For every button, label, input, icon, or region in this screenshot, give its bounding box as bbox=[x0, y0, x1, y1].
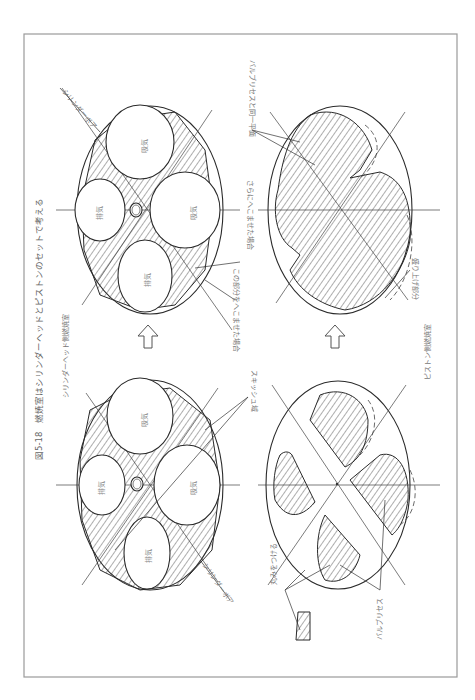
label-valve-recess: バルブリセス bbox=[375, 598, 384, 640]
arrow-top bbox=[138, 325, 158, 348]
head-chamber-baseline: 吸気 吸気 排気 排気 スキッシュ域 シリンダーボア bbox=[56, 370, 259, 606]
label-cylinder-bore-top: シリンダーボア bbox=[60, 88, 98, 131]
intake-valve-2 bbox=[150, 172, 220, 248]
caption-piston-side: ピストン側燃焼室 bbox=[423, 324, 432, 380]
label-squish-area: スキッシュ域 bbox=[250, 370, 259, 412]
arrow-bottom bbox=[325, 325, 345, 348]
label-raised-part: 盛り上げ部分 bbox=[411, 258, 420, 300]
intake-valve-2-baseline bbox=[154, 445, 220, 525]
label-intake-1-baseline: 吸気 bbox=[140, 413, 149, 427]
combustion-chamber-figure: 吸気 吸気 排気 排気 シリンダーボア バルブリセスと同一平面 盛り上げ部分 bbox=[0, 0, 475, 700]
intake-valve-1 bbox=[106, 105, 174, 179]
caption-head-side: シリンダーヘッド側燃焼室 bbox=[61, 314, 70, 398]
label-rounding: 丸みをつける bbox=[269, 543, 278, 585]
label-intake-2-baseline: 吸気 bbox=[189, 481, 198, 495]
intake-valve-1-baseline bbox=[107, 378, 173, 454]
label-exhaust-2: 排気 bbox=[143, 273, 152, 287]
piston-chamber-modified: バルブリセスと同一平面 盛り上げ部分 bbox=[248, 60, 440, 314]
label-exhaust-1: 排気 bbox=[95, 206, 104, 220]
figure-title: 図5-18 燃焼室はシリンダーヘッドとピストンのセットで考える bbox=[34, 198, 44, 460]
label-recess-this-part: この部分をへこませた場合 bbox=[232, 268, 241, 352]
piston-chamber-baseline: 丸みをつける バルブリセス bbox=[258, 381, 440, 640]
valve-recess-3 bbox=[274, 452, 315, 515]
figure-frame bbox=[24, 34, 457, 677]
label-intake-1: 吸気 bbox=[140, 139, 149, 153]
label-intake-2: 吸気 bbox=[189, 206, 198, 220]
valve-recess-2 bbox=[350, 454, 408, 535]
valve-recess-4 bbox=[318, 515, 361, 581]
label-recess-further: さらにへこませた場合 bbox=[246, 180, 255, 250]
head-chamber-modified: 吸気 吸気 排気 排気 シリンダーボア bbox=[56, 88, 240, 330]
label-same-plane: バルブリセスと同一平面 bbox=[248, 60, 257, 137]
label-cylinder-bore-bottom: シリンダーボア bbox=[200, 561, 235, 606]
label-exhaust-2-baseline: 排気 bbox=[144, 549, 153, 563]
label-exhaust-1-baseline: 排気 bbox=[97, 481, 106, 495]
